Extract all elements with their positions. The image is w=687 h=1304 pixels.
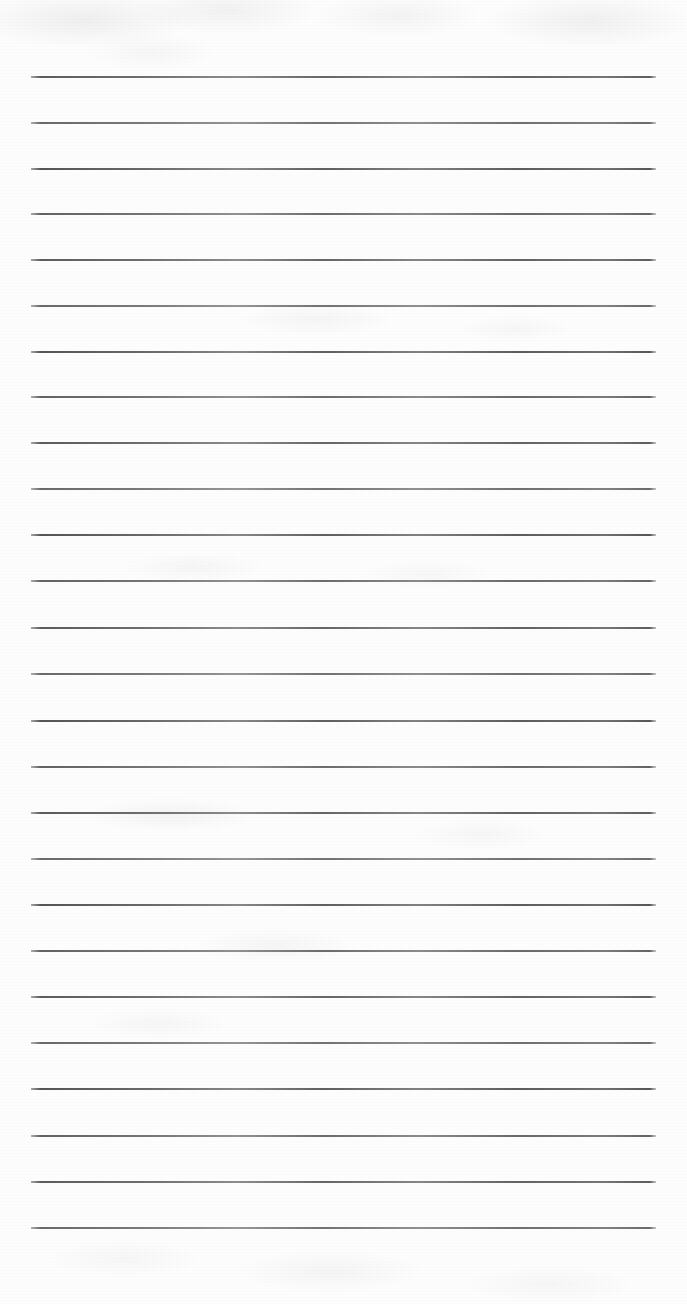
scanned-page — [0, 0, 687, 1304]
writing-area[interactable] — [31, 76, 656, 1229]
